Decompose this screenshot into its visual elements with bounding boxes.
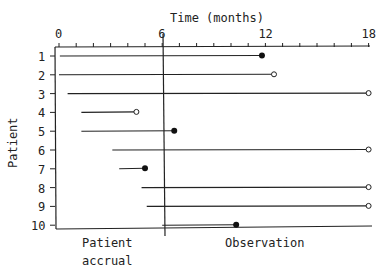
accrual-label-1: Patient xyxy=(82,236,133,250)
y-tick-label: 4 xyxy=(38,106,45,120)
x-tick-label: 6 xyxy=(158,27,165,41)
patient-row-8 xyxy=(142,185,372,190)
patient-rows xyxy=(59,53,371,228)
x-tick-label: 18 xyxy=(362,27,376,41)
y-tick-label: 10 xyxy=(31,219,45,233)
censored-marker xyxy=(366,91,371,96)
censored-marker xyxy=(272,72,277,77)
y-axis-title: Patient xyxy=(6,117,20,168)
patient-row-4 xyxy=(81,109,139,114)
patient-row-2 xyxy=(59,72,277,77)
x-tick-label: 0 xyxy=(55,27,62,41)
patient-row-1 xyxy=(60,53,265,59)
censored-marker xyxy=(366,147,371,152)
patient-row-7 xyxy=(119,165,148,171)
event-marker xyxy=(142,165,148,171)
event-marker xyxy=(233,222,239,228)
observation-label: Observation xyxy=(225,236,304,250)
patient-timeline-chart: Time (months) 061218 12345678910 Patient… xyxy=(0,0,383,276)
x-axis-line xyxy=(55,46,370,47)
y-tick-label: 9 xyxy=(38,200,45,214)
patient-row-9 xyxy=(147,203,371,208)
y-tick-label: 3 xyxy=(38,88,45,102)
y-axis-labels: 12345678910 xyxy=(31,50,55,233)
bottom-line xyxy=(56,226,372,229)
patient-row-6 xyxy=(112,147,371,152)
event-marker xyxy=(259,53,265,59)
censored-marker xyxy=(134,109,139,114)
censored-marker xyxy=(366,185,371,190)
y-tick-label: 2 xyxy=(38,69,45,83)
y-tick-label: 1 xyxy=(38,50,45,64)
accrual-label-2: accrual xyxy=(82,254,133,268)
patient-row-5 xyxy=(81,128,177,134)
y-tick-label: 8 xyxy=(38,182,45,196)
accrual-divider xyxy=(163,34,165,236)
x-tick-label: 12 xyxy=(258,27,272,41)
y-tick-label: 6 xyxy=(38,144,45,158)
x-axis-ticks: 061218 xyxy=(55,27,376,47)
x-axis-title: Time (months) xyxy=(170,11,264,25)
y-tick-label: 5 xyxy=(38,125,45,139)
y-tick-label: 7 xyxy=(38,163,45,177)
left-axis-line xyxy=(55,47,56,229)
censored-marker xyxy=(366,203,371,208)
patient-row-3 xyxy=(68,91,372,96)
event-marker xyxy=(171,128,177,134)
